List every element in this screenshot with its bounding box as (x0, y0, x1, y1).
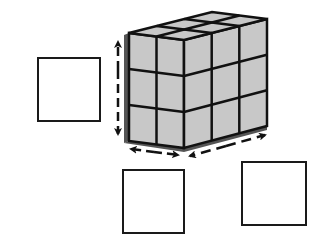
width-answer-box[interactable] (122, 169, 185, 234)
prism-side-face (184, 19, 267, 148)
width-arrow-right (154, 152, 178, 155)
prism-front-face (129, 33, 184, 148)
height-answer-box[interactable] (37, 57, 101, 122)
width-arrow (131, 149, 154, 152)
length-answer-box[interactable] (241, 161, 307, 226)
